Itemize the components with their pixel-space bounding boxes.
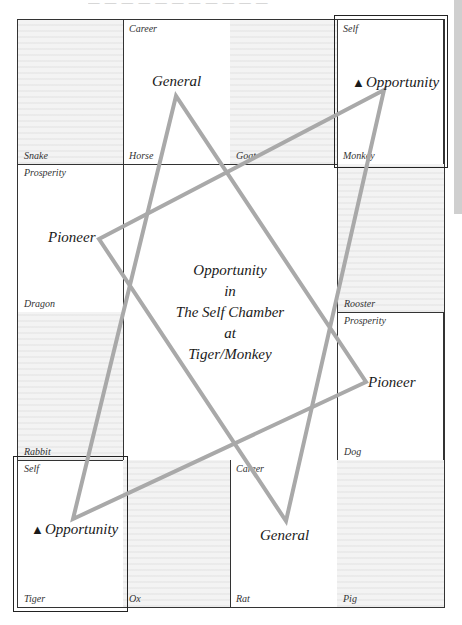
center-line-3: The Self Chamber bbox=[176, 302, 284, 323]
center-line-4: at bbox=[224, 323, 236, 344]
chamber-label: Prosperity bbox=[24, 167, 66, 178]
star-opportunity-monkey: ▲Opportunity bbox=[352, 74, 439, 91]
chamber-label: Self bbox=[24, 463, 39, 474]
center-line-1: Opportunity bbox=[193, 260, 266, 281]
triangle-marker-icon: ▲ bbox=[352, 75, 365, 91]
star-general-rat: General bbox=[260, 527, 309, 544]
palace-label: Rat bbox=[236, 593, 250, 604]
page-header-fragment: — — — — — — — — — — — bbox=[88, 0, 388, 6]
chamber-label: Self bbox=[343, 23, 358, 34]
chamber-label: Career bbox=[236, 463, 264, 474]
chamber-label: Career bbox=[129, 23, 157, 34]
cell-horse: Career Horse bbox=[123, 19, 231, 165]
star-general-horse: General bbox=[152, 73, 201, 90]
palace-label: Ox bbox=[129, 593, 141, 604]
triangle-marker-icon: ▲ bbox=[31, 522, 44, 538]
cell-rabbit: Rabbit bbox=[17, 312, 124, 461]
page-edge-strip bbox=[454, 0, 462, 214]
center-line-5: Tiger/Monkey bbox=[188, 344, 271, 365]
palace-label: Dog bbox=[344, 446, 361, 457]
cell-pig: Pig bbox=[337, 460, 445, 608]
palace-label: Rooster bbox=[344, 298, 375, 309]
palace-label: Monkey bbox=[343, 150, 375, 161]
palace-label: Goat bbox=[236, 150, 256, 161]
palace-label: Snake bbox=[24, 150, 48, 161]
center-line-2: in bbox=[224, 281, 236, 302]
cell-goat: Goat bbox=[230, 19, 338, 165]
star-pioneer-dragon: Pioneer bbox=[48, 229, 95, 246]
palace-label: Horse bbox=[129, 150, 153, 161]
star-opportunity-tiger: ▲Opportunity bbox=[31, 521, 118, 538]
palace-label: Pig bbox=[343, 593, 357, 604]
palace-label: Dragon bbox=[24, 298, 55, 309]
cell-monkey: Self Monkey bbox=[337, 19, 445, 165]
cell-snake: Snake bbox=[17, 19, 124, 165]
cell-ox: Ox bbox=[123, 460, 231, 608]
palace-label: Rabbit bbox=[24, 446, 51, 457]
star-pioneer-dog: Pioneer bbox=[368, 374, 415, 391]
center-caption: Opportunity in The Self Chamber at Tiger… bbox=[123, 164, 337, 460]
palace-label: Tiger bbox=[24, 593, 45, 604]
cell-rooster: Rooster bbox=[337, 164, 445, 313]
chamber-label: Prosperity bbox=[344, 315, 386, 326]
